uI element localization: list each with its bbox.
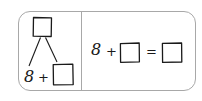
worksheet-page: 8 + 8 + = <box>0 0 202 101</box>
number-bond-part-addend: 8 <box>24 69 34 85</box>
equation-plus-icon: + <box>106 45 117 58</box>
equation-addend: 8 <box>91 42 101 58</box>
panel-divider <box>81 11 82 91</box>
number-bond-plus-icon: + <box>38 71 49 84</box>
equation-equals-icon: = <box>146 45 157 58</box>
